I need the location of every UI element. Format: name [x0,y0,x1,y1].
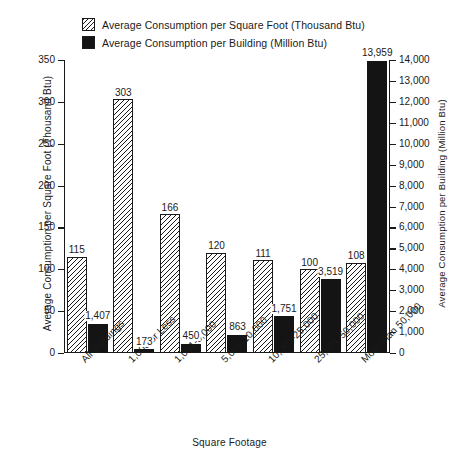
bar-value-label: 108 [348,251,365,261]
y-right-tick-mark [390,102,396,103]
bar-value-label: 13,959 [361,48,394,58]
legend-label-square-foot: Average Consumption per Square Foot (Tho… [102,19,365,31]
bar-value-label: 450 [182,331,201,341]
y-right-tick-mark [390,207,396,208]
y-left-tick-label: 0 [49,348,55,358]
y-right-tick-mark [390,144,396,145]
bar-group: 303173 [111,60,158,353]
y-right-tick-label: 7,000 [399,202,424,212]
bar-group: 1111,751 [250,60,297,353]
bar-value-label: 1,751 [271,304,298,314]
y-right-tick-mark [390,60,396,61]
y-right-tick-mark [390,311,396,312]
bar-group: 1151,407 [64,60,111,353]
y-left-tick-label: 300 [38,97,55,107]
y-right-tick-mark [390,269,396,270]
bar-value-label: 863 [228,322,247,332]
solid-swatch-icon [82,36,95,49]
legend-label-per-building: Average Consumption per Building (Millio… [102,37,327,49]
y-right-tick-mark [390,227,396,228]
bar-per-building[interactable]: 13,959 [367,61,387,353]
y-left-tick-label: 350 [38,55,55,65]
y-left-tick-label: 150 [38,222,55,232]
y-right-tick-mark [390,248,396,249]
y-left-tick-label: 50 [44,306,55,316]
y-right-tick-label: 10,000 [399,139,430,149]
y-right-tick-label: 6,000 [399,222,424,232]
bar-square-foot[interactable]: 120 [206,253,226,353]
y-left-tick-mark [58,353,64,354]
hatch-swatch-icon [82,18,95,31]
bar-group: 1003,519 [297,60,344,353]
y-axis-right-title: Average Consumption per Building (Millio… [436,64,447,344]
y-right-tick-label: 5,000 [399,243,424,253]
y-right-tick-mark [390,290,396,291]
plot-area: 050100150200250300350 01,0002,0003,0004,… [64,60,390,353]
y-right-tick-mark [390,81,396,82]
legend-item-square-foot: Average Consumption per Square Foot (Tho… [82,16,382,33]
bar-value-label: 100 [301,258,318,268]
chart-legend: Average Consumption per Square Foot (Tho… [82,16,382,52]
y-right-tick-mark [390,123,396,124]
bar-group: 166450 [157,60,204,353]
bar-value-label: 115 [69,245,85,255]
bar-square-foot[interactable]: 115 [67,257,87,353]
legend-item-per-building: Average Consumption per Building (Millio… [82,34,382,51]
y-right-tick-label: 13,000 [399,76,430,86]
bar-group: 120863 [204,60,251,353]
bar-value-label: 120 [208,241,225,251]
bar-group: 10813,959 [343,60,390,353]
bar-square-foot[interactable]: 100 [300,269,320,353]
y-left-tick-label: 250 [38,139,55,149]
bar-square-foot[interactable]: 108 [346,263,366,353]
bar-square-foot[interactable]: 303 [113,99,133,353]
bar-value-label: 1,407 [84,311,111,321]
y-left-tick-label: 200 [38,181,55,191]
bar-value-label: 303 [115,88,132,98]
x-axis-title: Square Footage [0,437,459,448]
bar-value-label: 166 [162,203,179,213]
y-right-tick-label: 12,000 [399,97,430,107]
y-right-tick-label: 14,000 [399,55,430,65]
bar-value-label: 173 [135,337,154,347]
y-right-tick-label: 8,000 [399,181,424,191]
y-right-tick-mark [390,165,396,166]
y-right-tick-label: 11,000 [399,118,429,128]
bar-value-label: 111 [255,249,270,259]
y-right-tick-label: 4,000 [399,264,424,274]
y-left-tick-label: 100 [38,264,55,274]
bar-value-label: 3,519 [317,267,344,277]
y-right-tick-label: 9,000 [399,160,424,170]
y-right-tick-label: 3,000 [399,285,424,295]
y-right-tick-label: 0 [399,348,405,358]
y-right-tick-mark [390,186,396,187]
y-right-tick-mark [390,353,396,354]
